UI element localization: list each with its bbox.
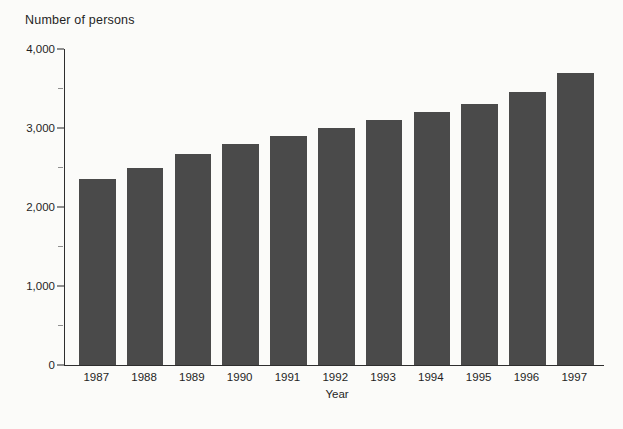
y-major-tick	[57, 364, 64, 365]
bar-1992	[318, 128, 355, 365]
x-tick-label: 1992	[315, 371, 355, 383]
y-major-tick	[57, 48, 64, 49]
x-tick-label: 1994	[411, 371, 451, 383]
y-minor-tick	[58, 246, 63, 247]
y-major-tick	[57, 285, 64, 286]
bar-1991	[270, 136, 307, 365]
chart-canvas: Number of persons Year 19871988198919901…	[0, 0, 623, 429]
bar-1993	[366, 120, 403, 365]
bar-1987	[79, 179, 116, 365]
x-tick-label: 1990	[220, 371, 260, 383]
x-tick-label: 1995	[459, 371, 499, 383]
bar-1996	[509, 92, 546, 365]
y-tick-label: 1,000	[10, 280, 55, 292]
y-minor-tick	[58, 167, 63, 168]
y-minor-tick	[58, 325, 63, 326]
y-major-tick	[57, 127, 64, 128]
plot-area	[64, 49, 604, 366]
bar-1989	[175, 154, 212, 365]
x-axis-title: Year	[311, 388, 363, 400]
y-tick-label: 0	[10, 359, 55, 371]
y-tick-label: 4,000	[10, 43, 55, 55]
x-tick-label: 1991	[267, 371, 307, 383]
x-tick-label: 1996	[506, 371, 546, 383]
y-tick-label: 3,000	[10, 122, 55, 134]
bar-1997	[557, 73, 594, 365]
bar-1988	[127, 168, 164, 366]
y-major-tick	[57, 206, 64, 207]
x-tick-label: 1997	[554, 371, 594, 383]
chart-title: Number of persons	[25, 13, 135, 27]
bar-1990	[222, 144, 259, 365]
x-tick-label: 1993	[363, 371, 403, 383]
bar-1994	[414, 112, 451, 365]
x-tick-label: 1988	[124, 371, 164, 383]
y-tick-label: 2,000	[10, 201, 55, 213]
x-tick-label: 1989	[172, 371, 212, 383]
bar-1995	[461, 104, 498, 365]
x-tick-label: 1987	[76, 371, 116, 383]
y-minor-tick	[58, 88, 63, 89]
